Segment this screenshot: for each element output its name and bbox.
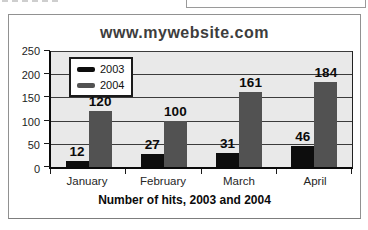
bar-2004-april: 184 — [314, 51, 337, 167]
x-tick-label: February — [125, 175, 201, 187]
x-tick-mark — [201, 169, 202, 174]
bar — [164, 121, 187, 167]
bar-value-label: 31 — [220, 136, 235, 151]
bar — [291, 146, 314, 167]
legend-label: 2003 — [100, 63, 124, 75]
y-tick-mark — [44, 96, 50, 97]
y-axis-labels: 050100150200250 — [9, 51, 45, 169]
x-tick-label: January — [49, 175, 125, 187]
bar-value-label: 184 — [315, 65, 338, 80]
legend: 20032004 — [69, 57, 133, 97]
bar-value-label: 100 — [164, 104, 187, 119]
x-tick-mark — [125, 169, 126, 174]
bar-2003-april: 46 — [291, 51, 314, 167]
bar-value-label: 12 — [70, 144, 85, 159]
category-group: 31161 — [202, 51, 277, 167]
y-tick-label: 250 — [22, 45, 40, 57]
y-tick-label: 50 — [28, 139, 40, 151]
y-tick-mark — [44, 73, 50, 74]
chart-caption: Number of hits, 2003 and 2004 — [9, 193, 360, 207]
chart-panel: www.mywebsite.com 050100150200250 121202… — [8, 14, 361, 219]
bar — [89, 111, 112, 167]
legend-label: 2004 — [100, 79, 124, 91]
y-tick-label: 150 — [22, 92, 40, 104]
bar-2004-february: 100 — [164, 51, 187, 167]
bar-value-label: 27 — [145, 137, 160, 152]
y-tick-mark — [44, 143, 50, 144]
bar — [239, 92, 262, 167]
bar-2003-march: 31 — [216, 51, 239, 167]
y-tick-label: 200 — [22, 69, 40, 81]
bar — [66, 161, 89, 167]
legend-entry: 2004 — [77, 79, 124, 91]
bar-2004-march: 161 — [239, 51, 262, 167]
bar — [216, 153, 239, 167]
cropped-panel — [186, 0, 366, 8]
y-tick-mark — [44, 50, 50, 51]
y-tick-label: 100 — [22, 116, 40, 128]
legend-entry: 2003 — [77, 63, 124, 75]
legend-swatch-icon — [77, 67, 95, 72]
bar-value-label: 161 — [239, 75, 262, 90]
bar-2003-february: 27 — [141, 51, 164, 167]
x-tick-mark — [276, 169, 277, 174]
category-group: 46184 — [277, 51, 352, 167]
legend-swatch-icon — [77, 83, 95, 88]
chart-title: www.mywebsite.com — [9, 24, 360, 42]
x-tick-mark — [50, 169, 51, 174]
y-tick-mark — [44, 120, 50, 121]
plot-area: 12120271003116146184 20032004 — [49, 51, 353, 169]
bar — [314, 82, 337, 167]
category-group: 27100 — [126, 51, 201, 167]
bar-value-label: 46 — [295, 129, 310, 144]
bar — [141, 154, 164, 167]
x-tick-mark — [351, 169, 352, 174]
x-axis-labels: JanuaryFebruaryMarchApril — [49, 175, 353, 187]
x-tick-label: April — [277, 175, 353, 187]
y-tick-mark — [44, 166, 50, 167]
x-tick-label: March — [201, 175, 277, 187]
y-tick-label: 0 — [34, 163, 40, 175]
cropped-text-fragment — [2, 0, 58, 2]
